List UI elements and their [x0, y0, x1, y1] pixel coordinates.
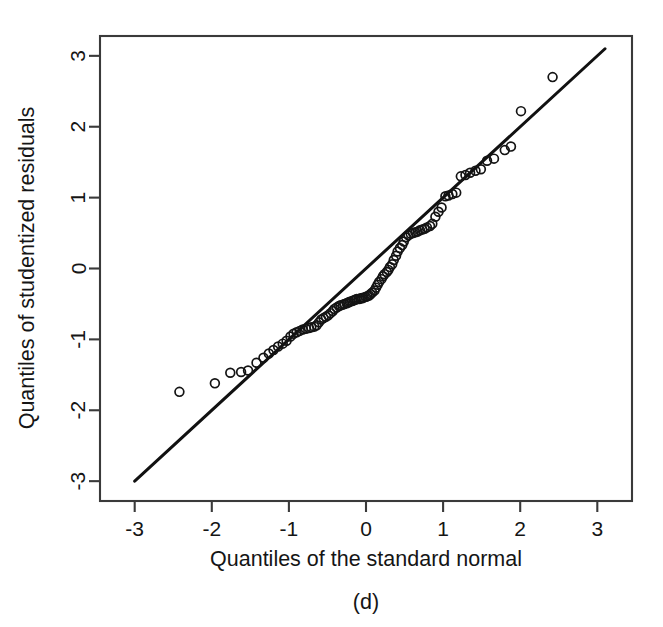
x-tick-label-5: 2	[514, 517, 526, 540]
y-axis-title: Quantiles of studentized residuals	[15, 107, 39, 430]
y-tick-label-3: 0	[67, 263, 90, 275]
qq-plot-canvas: -3-2-10123 -3-2-10123 Quantiles of the s…	[0, 0, 663, 627]
y-tick-label-0: -3	[67, 472, 90, 491]
x-tick-label-1: -2	[202, 517, 221, 540]
qq-plot-figure: -3-2-10123 -3-2-10123 Quantiles of the s…	[0, 0, 663, 627]
y-tick-label-1: -2	[67, 401, 90, 420]
y-tick-label-5: 2	[67, 121, 90, 133]
x-tick-label-4: 1	[437, 517, 449, 540]
x-tick-label-6: 3	[591, 517, 603, 540]
x-tick-label-0: -3	[125, 517, 144, 540]
x-axis-title: Quantiles of the standard normal	[210, 547, 522, 571]
y-tick-label-2: -1	[67, 330, 90, 349]
x-tick-label-3: 0	[360, 517, 372, 540]
x-tick-label-2: -1	[280, 517, 299, 540]
y-tick-label-6: 3	[67, 50, 90, 62]
y-tick-label-4: 1	[67, 192, 90, 204]
panel-caption: (d)	[353, 590, 379, 614]
